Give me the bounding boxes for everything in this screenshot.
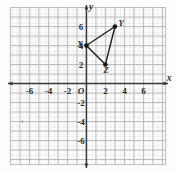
x-tick-label-pos4: 4 [122,86,127,96]
y-tick-label-neg4: -4 [77,117,85,127]
vertex-label-x: X [76,39,83,49]
vertex-label-z: Z [102,65,108,75]
y-axis-arrow-down [85,164,89,169]
x-tick-label-neg4: -4 [45,86,53,96]
x-tick-label-pos6: 6 [141,86,146,96]
vertex-point-x [84,43,89,48]
y-axis-label: y [88,2,94,12]
vertex-point-y [113,24,118,29]
y-tick-label-pos2: 2 [79,60,84,70]
vertex-label-y: Y [118,18,124,28]
x-tick-label-neg2: -2 [64,86,72,96]
coordinate-plot: x y O -6 -4 -2 2 4 6 6 4 2 -2 -4 -6 X Y … [0,0,176,173]
origin-label: O [78,86,85,96]
x-tick-label-pos2: 2 [103,86,108,96]
stray-mark [22,121,24,123]
y-tick-label-pos6: 6 [79,22,84,32]
coordinate-plane-figure: x y O -6 -4 -2 2 4 6 6 4 2 -2 -4 -6 X Y … [0,0,176,173]
y-tick-label-neg6: -6 [77,136,85,146]
y-tick-label-neg2: -2 [77,98,85,108]
x-tick-label-neg6: -6 [26,86,34,96]
x-axis-label: x [166,73,172,83]
